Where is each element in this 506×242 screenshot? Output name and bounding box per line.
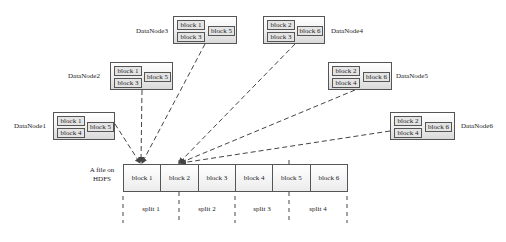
datanode5: block 2 block 4 block 6: [328, 62, 392, 90]
block-chip: block 2: [394, 116, 422, 126]
block-chip: block 2: [267, 20, 295, 30]
file-block: block 3: [199, 165, 236, 191]
block-chip: block 1: [177, 20, 205, 30]
arrow-datanode2-block1: [141, 90, 142, 162]
arrow-datanode1-block1: [115, 124, 140, 163]
datanode4: block 2 block 3 block 6: [263, 16, 325, 44]
datanode1-label: DataNode1: [14, 122, 46, 130]
block-chip: block 2: [332, 66, 360, 76]
file-label-line2: HDFS: [86, 175, 118, 184]
file-label-line1: A file on: [86, 166, 118, 175]
block-chip: block 4: [57, 128, 85, 138]
file-block: block 6: [311, 165, 347, 191]
split-label: split 1: [131, 205, 171, 213]
split-label: split 4: [298, 205, 338, 213]
arrow-datanode6-block2: [181, 131, 390, 163]
block-chip: block 4: [332, 78, 360, 88]
hdfs-file-row: block 1 block 2 block 3 block 4 block 5 …: [123, 164, 348, 192]
block-chip: block 5: [208, 26, 235, 36]
block-chip: block 5: [144, 72, 171, 82]
block-chip: block 1: [57, 116, 85, 126]
block-chip: block 3: [267, 32, 295, 42]
file-block: block 4: [236, 165, 273, 191]
datanode2: block 1 block 3 block 5: [110, 62, 173, 90]
block-chip: block 1: [114, 66, 142, 76]
block-chip: block 4: [394, 128, 422, 138]
arrow-datanode5-block2: [180, 90, 355, 163]
datanode6: block 2 block 4 block 6: [390, 112, 455, 140]
datanode5-label: DataNode5: [396, 72, 428, 80]
hdfs-split-diagram: DataNode1 block 1 block 4 block 5 DataNo…: [0, 0, 506, 242]
block-chip: block 3: [114, 78, 142, 88]
file-block: block 2: [161, 165, 198, 191]
arrow-datanode4-block2: [179, 44, 295, 163]
block-chip: block 6: [297, 26, 323, 36]
datanode3: block 1 block 3 block 5: [173, 16, 237, 44]
block-chip: block 5: [87, 122, 114, 132]
block-chip: block 3: [177, 32, 205, 42]
block-chip: block 6: [425, 122, 452, 132]
block-chip: block 6: [363, 72, 390, 82]
datanode4-label: DataNode4: [331, 27, 363, 35]
file-label: A file on HDFS: [86, 166, 118, 184]
split-label: split 3: [242, 205, 282, 213]
file-block: block 1: [124, 165, 161, 191]
datanode1: block 1 block 4 block 5: [53, 112, 115, 140]
datanode2-label: DataNode2: [68, 72, 100, 80]
split-label: split 2: [187, 205, 227, 213]
file-block: block 5: [273, 165, 310, 191]
datanode6-label: DataNode6: [461, 122, 493, 130]
datanode3-label: DataNode3: [136, 27, 168, 35]
